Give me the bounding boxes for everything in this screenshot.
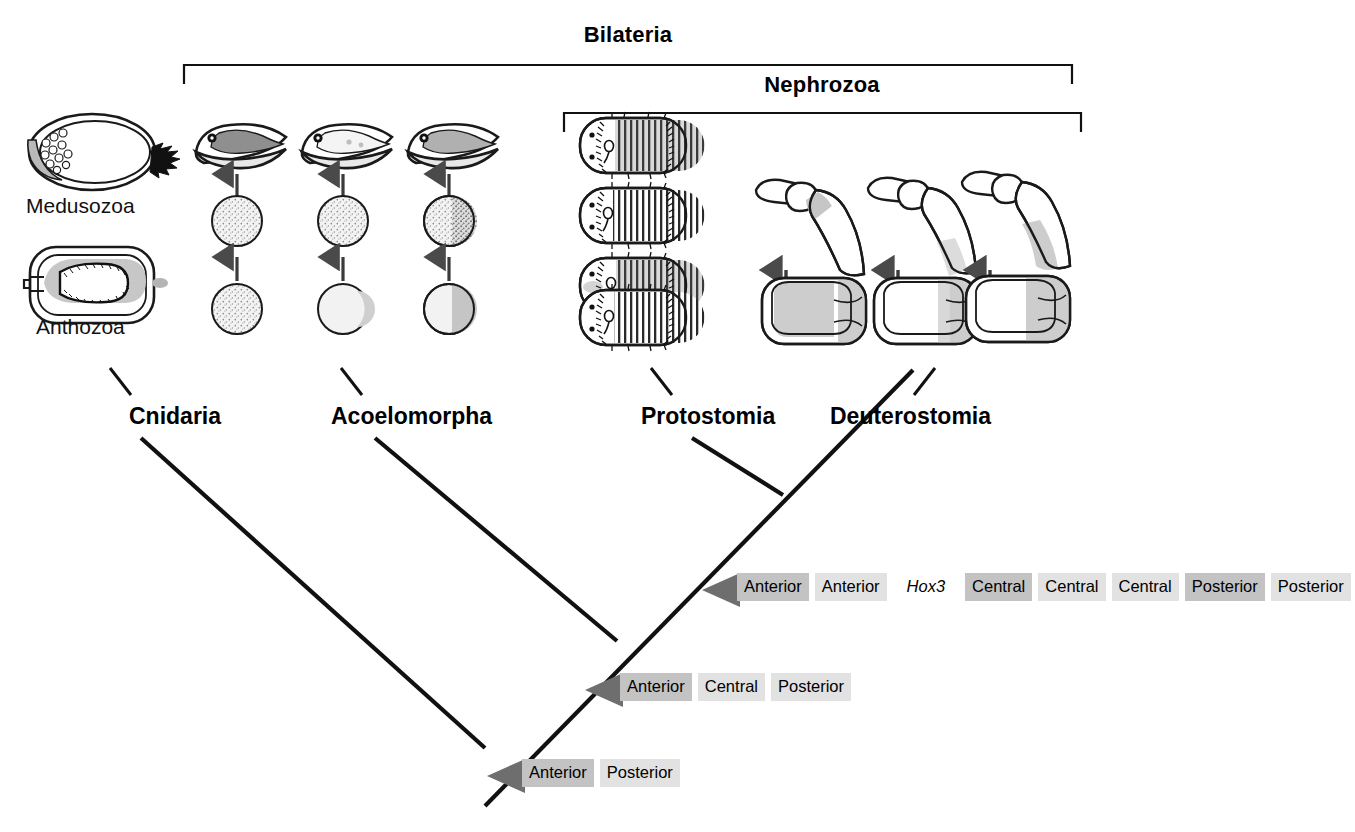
taxon-label-deuterostomia[interactable]: Deuterostomia: [830, 403, 991, 430]
branch-protostomia: [692, 438, 783, 495]
nephrozoa-hox-cluster: AnteriorAnteriorHox3CentralCentralCentra…: [737, 573, 1355, 601]
hox-gene-posterior[interactable]: Posterior: [600, 759, 680, 787]
hox-gene-anterior[interactable]: Anterior: [815, 573, 887, 601]
branch-acoelomorpha: [375, 438, 617, 641]
taxon-label-acoelomorpha[interactable]: Acoelomorpha: [331, 403, 492, 430]
hox-gene-anterior[interactable]: Anterior: [737, 573, 809, 601]
hox-gene-posterior[interactable]: Posterior: [771, 673, 851, 701]
hox-gene-central[interactable]: Central: [1038, 573, 1105, 601]
hox-gene-posterior[interactable]: Posterior: [1185, 573, 1265, 601]
hox-gene-central[interactable]: Central: [965, 573, 1032, 601]
hox-gene-anterior[interactable]: Anterior: [522, 759, 594, 787]
hox-gene-anterior[interactable]: Anterior: [620, 673, 692, 701]
hox-gene-hox3[interactable]: Hox3: [893, 573, 960, 601]
eumetazoa-hox-cluster: AnteriorPosterior: [522, 759, 686, 787]
bilateria-hox-cluster: AnteriorCentralPosterior: [620, 673, 857, 701]
stub-acoelomorpha: [341, 368, 362, 395]
taxon-label-cnidaria[interactable]: Cnidaria: [129, 403, 221, 430]
hox-gene-central[interactable]: Central: [698, 673, 765, 701]
hox-gene-posterior[interactable]: Posterior: [1271, 573, 1351, 601]
hox-gene-central[interactable]: Central: [1112, 573, 1179, 601]
taxon-label-protostomia[interactable]: Protostomia: [641, 403, 775, 430]
stub-deuterostomia: [914, 368, 935, 395]
stub-protostomia: [651, 368, 672, 395]
stub-cnidaria: [110, 368, 131, 395]
